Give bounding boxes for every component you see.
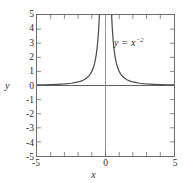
equation-exponent: −2 [136,36,144,43]
y-tick-label: 0 [20,82,34,92]
x-tick-label: -5 [26,158,46,168]
chart-figure: 5 4 3 2 1 0 -1 -2 -3 -4 -5 -5 0 5 y x y … [0,0,187,183]
y-tick-label: -4 [20,139,34,149]
y-tick-label: -1 [20,96,34,106]
y-tick-label: -2 [20,110,34,120]
x-axis-title: x [0,169,187,180]
curve-left-branch [37,15,99,85]
equation-annotation: y = x−2 [114,36,144,48]
plot-area [36,14,175,157]
y-axis-tick-labels: 5 4 3 2 1 0 -1 -2 -3 -4 -5 [17,14,34,157]
y-tick-label: 4 [20,24,34,34]
y-tick-label: 1 [20,67,34,77]
x-tick-label: 5 [165,158,185,168]
equation-base: y = x [114,37,136,48]
curve-right-branch [112,15,174,85]
x-axis-minor-ticks [51,151,161,156]
y-tick-label: 5 [20,10,34,20]
plot-canvas [37,15,174,156]
y-tick-label: 2 [20,53,34,63]
x-tick-label: 0 [96,158,116,168]
y-tick-label: -3 [20,124,34,134]
y-tick-label: 3 [20,39,34,49]
y-axis-title: y [5,80,9,91]
